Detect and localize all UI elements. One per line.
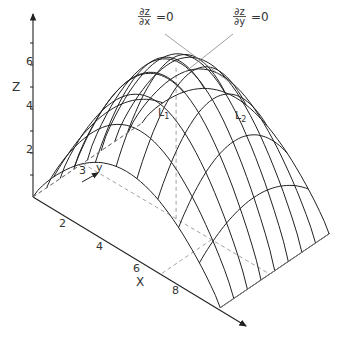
surface-plot [0, 0, 341, 344]
partial-z-x-equals: =0 [156, 10, 174, 24]
x-tick-6: 6 [133, 263, 140, 274]
x-axis-label: X [136, 277, 144, 288]
y-tick-3: 3 [79, 165, 86, 176]
surface-mesh [33, 54, 329, 308]
z-tick-4: 4 [26, 100, 33, 111]
surface-diagram: 6 4 2 Z 2 4 6 8 X 3 y L1 L2 ∂z ∂x =0 ∂z … [0, 0, 341, 344]
partial-z-y-equals: =0 [251, 10, 269, 24]
y-axis-label: y [96, 162, 103, 173]
x-tick-4: 4 [96, 241, 103, 252]
z-axis-label: Z [12, 82, 20, 93]
z-tick-6: 6 [26, 56, 33, 67]
partial-z-y-fraction: ∂z ∂y [233, 7, 246, 26]
curve-label-l2: L2 [235, 110, 246, 125]
partial-z-x-fraction: ∂z ∂x [138, 7, 151, 26]
x-tick-2: 2 [59, 218, 66, 229]
x-tick-8: 8 [172, 285, 179, 296]
curve-label-l1: L1 [158, 107, 169, 122]
z-tick-2: 2 [26, 144, 33, 155]
